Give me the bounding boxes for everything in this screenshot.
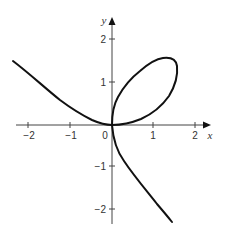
y-tick-label: 1 <box>100 77 106 88</box>
x-axis-label: x <box>207 129 213 141</box>
y-tick-label: −2 <box>95 204 107 215</box>
x-tick-label: 1 <box>150 130 156 141</box>
x-tick-label: 2 <box>192 130 198 141</box>
left-arm-path <box>13 61 112 125</box>
loop-path <box>112 58 177 125</box>
x-tick-label: −1 <box>65 130 77 141</box>
y-tick-label: 2 <box>100 34 106 45</box>
y-tick-label: −1 <box>95 161 107 172</box>
x-axis-arrow-icon <box>203 122 211 129</box>
y-axis-arrow-icon <box>109 17 116 25</box>
folium-chart: −2 −1 0 1 2 x 2 1 −1 −2 y <box>0 0 226 239</box>
y-axis-label: y <box>101 14 107 26</box>
lower-arm-path <box>112 125 172 222</box>
x-tick-label: 0 <box>102 130 108 141</box>
x-tick-label: −2 <box>23 130 35 141</box>
